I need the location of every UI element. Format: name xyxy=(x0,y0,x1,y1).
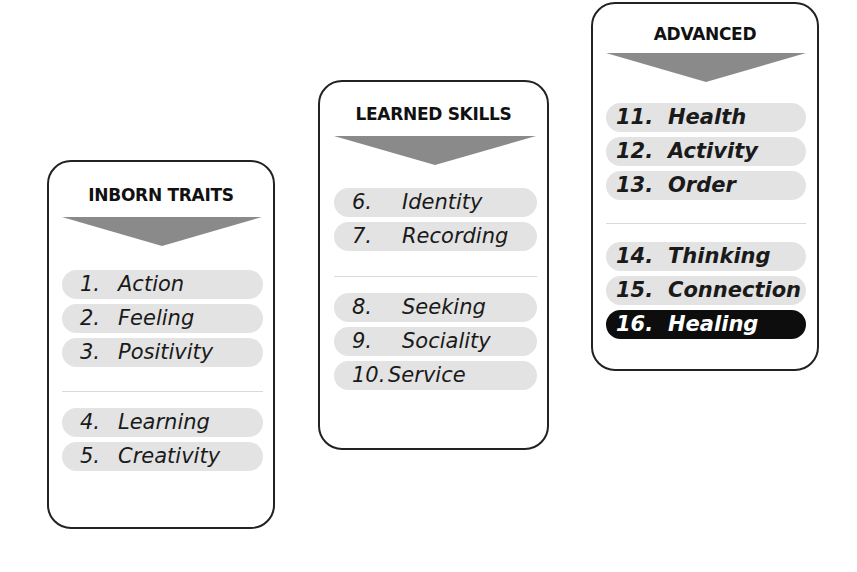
item-number: 6. xyxy=(352,188,402,217)
item-label: Action xyxy=(118,270,184,299)
card-advanced: ADVANCED 11.Health 12.Activity 13.Order … xyxy=(591,2,819,371)
item-label: Connection xyxy=(668,276,801,305)
item-number: 7. xyxy=(352,222,402,251)
item-number: 1. xyxy=(80,270,118,299)
card-title-advanced: ADVANCED xyxy=(593,24,817,44)
card-title-learned-skills: LEARNED SKILLS xyxy=(320,104,547,124)
list-item-positivity: 3.Positivity xyxy=(62,338,263,367)
list-item-identity: 6.Identity xyxy=(334,188,537,217)
item-label: Identity xyxy=(402,188,482,217)
item-label: Recording xyxy=(402,222,508,251)
item-label: Creativity xyxy=(118,442,220,471)
group-divider xyxy=(334,276,537,277)
list-item-feeling: 2.Feeling xyxy=(62,304,263,333)
item-label: Feeling xyxy=(118,304,194,333)
list-item-activity: 12.Activity xyxy=(606,137,806,166)
item-number: 15. xyxy=(616,276,668,305)
item-number: 10. xyxy=(352,361,388,390)
item-label: Activity xyxy=(668,137,758,166)
item-label: Health xyxy=(668,103,746,132)
list-item-learning: 4.Learning xyxy=(62,408,263,437)
list-item-service: 10.Service xyxy=(334,361,537,390)
item-number: 12. xyxy=(616,137,668,166)
list-item-recording: 7.Recording xyxy=(334,222,537,251)
list-item-thinking: 14.Thinking xyxy=(606,242,806,271)
item-number: 9. xyxy=(352,327,402,356)
list-item-action: 1.Action xyxy=(62,270,263,299)
item-label: Thinking xyxy=(668,242,771,271)
list-item-healing-highlighted: 16.Healing xyxy=(606,310,806,339)
item-number: 4. xyxy=(80,408,118,437)
list-item-order: 13.Order xyxy=(606,171,806,200)
group-divider xyxy=(606,223,806,224)
card-learned-skills: LEARNED SKILLS 6.Identity 7.Recording 8.… xyxy=(318,80,549,450)
list-item-connection: 15.Connection xyxy=(606,276,806,305)
list-item-sociality: 9.Sociality xyxy=(334,327,537,356)
card-inborn-traits: INBORN TRAITS 1.Action 2.Feeling 3.Posit… xyxy=(47,160,275,529)
list-item-health: 11.Health xyxy=(606,103,806,132)
item-number: 14. xyxy=(616,242,668,271)
group-divider xyxy=(62,391,263,392)
item-label: Service xyxy=(388,361,466,390)
item-number: 2. xyxy=(80,304,118,333)
item-number: 16. xyxy=(616,310,668,339)
card-title-inborn-traits: INBORN TRAITS xyxy=(49,185,273,205)
item-label: Positivity xyxy=(118,338,213,367)
item-label: Order xyxy=(668,171,736,200)
item-label: Sociality xyxy=(402,327,491,356)
item-number: 8. xyxy=(352,293,402,322)
item-label: Healing xyxy=(668,310,758,339)
list-item-creativity: 5.Creativity xyxy=(62,442,263,471)
list-item-seeking: 8.Seeking xyxy=(334,293,537,322)
item-number: 3. xyxy=(80,338,118,367)
item-number: 13. xyxy=(616,171,668,200)
item-label: Learning xyxy=(118,408,210,437)
item-label: Seeking xyxy=(402,293,486,322)
item-number: 5. xyxy=(80,442,118,471)
item-number: 11. xyxy=(616,103,668,132)
